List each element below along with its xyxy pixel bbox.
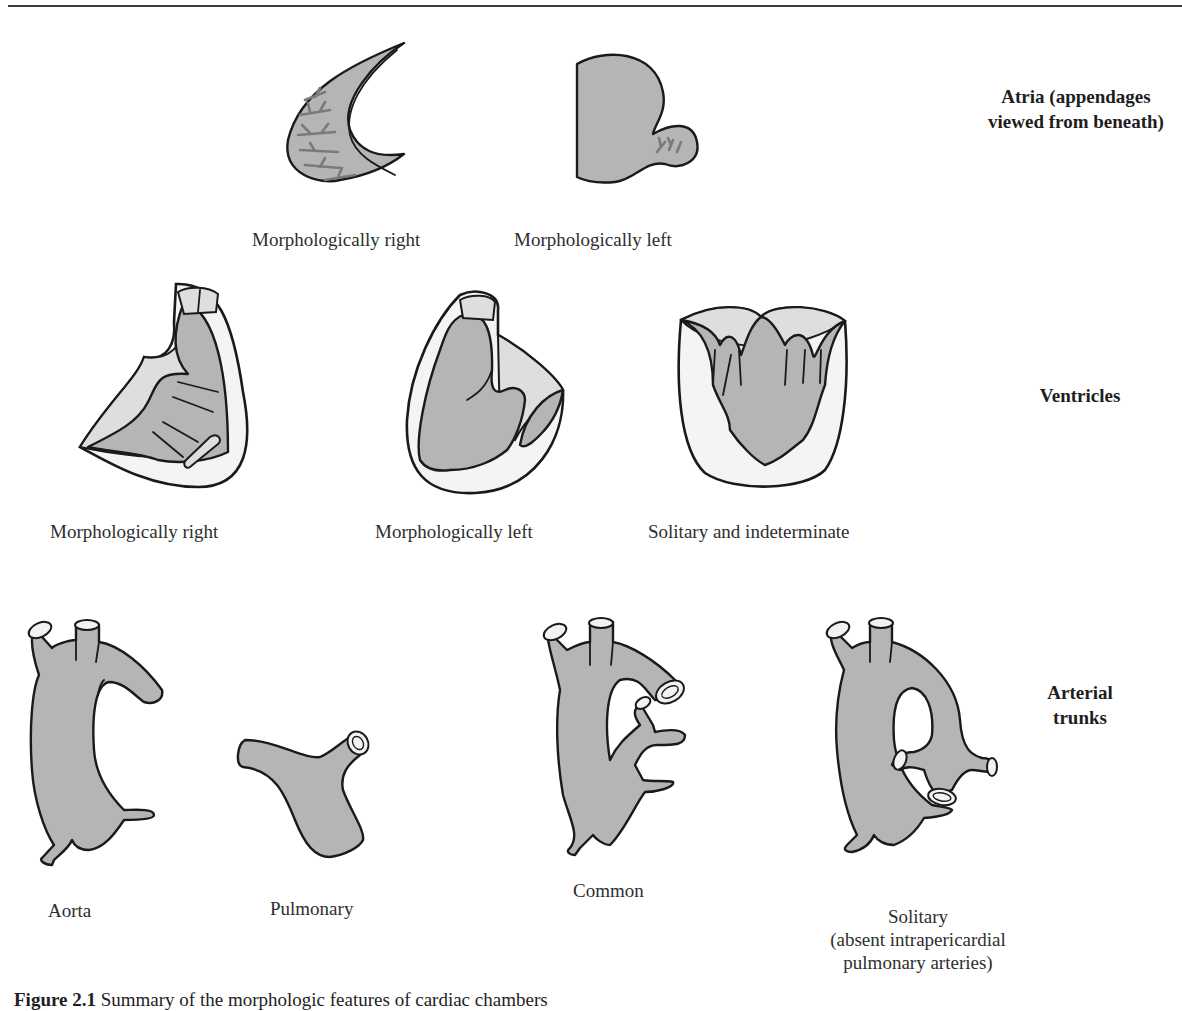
solitary-caption: Solitary (absent intrapericardial pulmon… [808,905,1028,974]
figure-caption: Figure 2.1 Summary of the morphologic fe… [14,989,548,1011]
aorta-illustration [14,620,164,870]
atria-right-caption: Morphologically right [252,229,420,251]
pulmonary-caption: Pulmonary [270,898,353,920]
pulmonary-trunk-illustration [235,715,375,860]
common-trunk-illustration [545,620,705,870]
ventricles-left-caption: Morphologically left [375,521,533,543]
morphologically-right-ventricle-illustration [78,282,268,492]
arterial-trunks-row-label: Arterial trunks [1000,680,1160,730]
figure-number: Figure 2.1 [14,989,96,1010]
ventricles-row-label: Ventricles [1000,383,1160,408]
solitary-trunk-illustration [822,620,1022,870]
morphologically-left-ventricle-illustration [395,290,570,495]
atria-row-label: Atria (appendages viewed from beneath) [976,84,1176,134]
top-rule [8,5,1182,7]
common-caption: Common [573,880,644,902]
atria-left-caption: Morphologically left [514,229,672,251]
figure-caption-text: Summary of the morphologic features of c… [101,989,548,1010]
ventricles-solitary-caption: Solitary and indeterminate [648,521,850,543]
morphologically-left-atrium-illustration [575,52,715,182]
ventricles-right-caption: Morphologically right [50,521,218,543]
aorta-caption: Aorta [48,900,91,922]
morphologically-right-atrium-illustration [280,40,420,190]
solitary-indeterminate-ventricle-illustration [675,305,850,495]
